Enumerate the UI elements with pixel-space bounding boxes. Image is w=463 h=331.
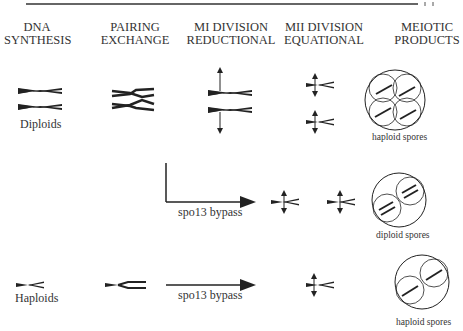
pairing-exchange-chromosomes	[112, 89, 154, 110]
spo13-bypass-label-row2: spo13 bypass	[178, 205, 242, 220]
equational-chromosome-row3	[306, 276, 334, 294]
spo13-bypass-label-row3: spo13 bypass	[178, 288, 242, 303]
header-line: EQUATIONAL	[284, 34, 364, 47]
haploid-spores-dyad	[395, 255, 449, 309]
bypass-arrow-row2	[166, 163, 256, 208]
header-meiotic-products: MEIOTIC PRODUCTS	[392, 21, 462, 47]
equational-chromosomes-row2	[271, 193, 355, 211]
haploid-spores-label-row1: haploid spores	[372, 132, 427, 142]
haploid-chromosome	[16, 282, 44, 289]
haploid-spores-tetrad	[365, 70, 425, 130]
diploid-chromosomes	[18, 88, 62, 110]
haploid-spores-label-row3: haploid spores	[396, 317, 451, 327]
header-line: REDUCTIONAL	[186, 34, 276, 47]
header-mii-division: MII DIVISION EQUATIONAL	[284, 21, 364, 47]
haploid-pairing-chromosome	[105, 282, 146, 288]
haploids-label: Haploids	[15, 291, 58, 306]
header-line: EXCHANGE	[100, 34, 170, 47]
diploid-spores-dyad	[372, 173, 426, 227]
diploids-label: Diploids	[20, 117, 61, 132]
mi-division-chromosomes	[208, 70, 252, 131]
meiosis-diagram	[0, 0, 463, 331]
header-mi-division: MI DIVISION REDUCTIONAL	[186, 21, 276, 47]
header-dna-synthesis: DNA SYNTHESIS	[4, 21, 70, 47]
mii-division-chromosomes	[306, 76, 334, 131]
header-line: SYNTHESIS	[4, 34, 70, 47]
diploid-spores-label: diploid spores	[376, 230, 430, 240]
header-pairing-exchange: PAIRING EXCHANGE	[100, 21, 170, 47]
header-line: PRODUCTS	[392, 34, 462, 47]
